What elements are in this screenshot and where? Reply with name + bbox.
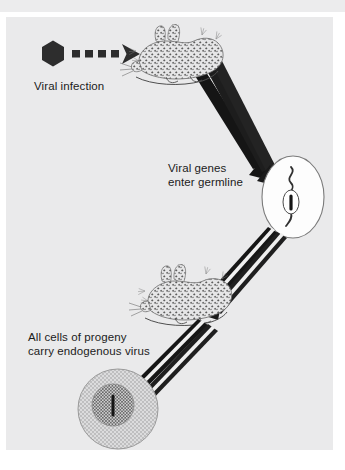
egg-cell-illustration [262,156,324,238]
label-viral-genes-enter-germline: Viral genes enter germline [168,161,243,189]
stippled-cell-illustration [78,369,158,449]
hexagon-virus-icon [42,41,64,67]
label-all-cells-of-progeny: All cells of progeny carry endogenous vi… [28,330,150,358]
label-viral-genes-line1: Viral genes [168,162,226,174]
label-progeny-line2: carry endogenous virus [28,345,150,357]
top-strip-decoration [0,0,345,12]
label-viral-genes-line2: enter germline [168,176,243,188]
figure-root: Viral infection Viral genes enter germli… [0,0,345,470]
illustration-panel: Viral infection Viral genes enter germli… [6,17,333,450]
label-progeny-line1: All cells of progeny [28,331,127,343]
dashed-arrow-icon [72,44,140,64]
label-viral-infection: Viral infection [34,79,104,93]
